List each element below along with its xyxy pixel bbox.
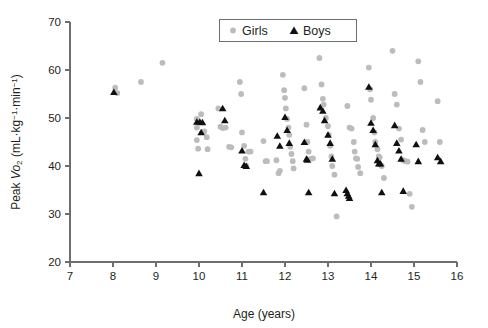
data-point-girl <box>422 139 428 145</box>
data-point-boy <box>412 141 420 148</box>
data-point-girl <box>332 172 338 178</box>
data-point-girl <box>390 48 396 54</box>
data-point-girl <box>349 126 355 132</box>
data-point-girl <box>394 102 400 108</box>
data-point-boy <box>365 83 373 90</box>
scatter-plot-figure: 203040506070 78910111213141516 Age (year… <box>0 0 488 328</box>
y-tick-label: 20 <box>48 256 61 268</box>
y-axis-tick-labels: 203040506070 <box>48 16 61 268</box>
data-point-girl <box>344 103 350 109</box>
data-point-girl <box>352 149 358 155</box>
data-point-girl <box>277 168 283 174</box>
data-point-boy <box>326 139 334 146</box>
data-point-boy <box>415 158 423 165</box>
plot-canvas: 203040506070 78910111213141516 Age (year… <box>0 0 488 328</box>
legend-boys-label: Boys <box>303 24 331 38</box>
y-title-unit-open: (mL·kg <box>9 120 23 161</box>
x-tick-label: 14 <box>365 270 378 282</box>
data-point-girl <box>357 170 363 176</box>
data-point-girl <box>355 164 361 170</box>
data-point-girl <box>398 137 404 143</box>
data-point-girl <box>381 175 387 181</box>
data-point-girl <box>319 82 325 88</box>
data-point-boy <box>260 189 268 196</box>
x-tick-label: 15 <box>408 270 421 282</box>
data-point-boy <box>378 189 386 196</box>
data-point-girl <box>205 146 211 152</box>
data-point-boy <box>195 170 203 177</box>
data-point-girl <box>366 65 372 71</box>
x-tick-label: 7 <box>67 270 73 282</box>
data-point-girl <box>195 146 201 152</box>
data-point-girl <box>354 156 360 162</box>
x-axis-tick-labels: 78910111213141516 <box>67 270 464 282</box>
data-point-boy <box>286 139 294 146</box>
data-point-boy <box>399 187 407 194</box>
data-point-boy <box>342 186 350 193</box>
y-tick-label: 40 <box>48 160 61 172</box>
data-point-girl <box>290 158 296 164</box>
data-point-boy <box>395 147 403 154</box>
y-tick-label: 30 <box>48 208 61 220</box>
x-tick-label: 12 <box>279 270 292 282</box>
data-point-girl <box>405 159 411 165</box>
data-point-girl <box>420 127 426 133</box>
x-axis-ticks <box>70 262 457 267</box>
x-tick-label: 8 <box>110 270 116 282</box>
data-point-girl <box>243 156 249 162</box>
data-point-girl <box>281 87 287 93</box>
y-tick-label: 50 <box>48 112 61 124</box>
data-point-girl <box>317 55 323 61</box>
data-point-girl <box>280 72 286 78</box>
x-tick-label: 13 <box>322 270 335 282</box>
data-point-girl <box>198 111 204 117</box>
data-point-girl <box>310 155 316 161</box>
x-tick-label: 10 <box>193 270 206 282</box>
x-tick-label: 11 <box>236 270 248 282</box>
data-point-girl <box>418 79 424 85</box>
y-title-lead: Peak <box>9 179 23 210</box>
data-point-girl <box>228 144 234 150</box>
legend-girls-label: Girls <box>242 24 268 38</box>
data-point-girl <box>237 79 243 85</box>
data-point-girl <box>239 130 245 136</box>
data-point-girl <box>325 123 331 129</box>
data-point-girl <box>435 98 441 104</box>
x-axis-title: Age (years) <box>233 307 295 321</box>
y-axis-ticks <box>65 22 70 262</box>
data-point-boy <box>331 190 339 197</box>
data-point-girl <box>368 97 374 103</box>
data-point-girl <box>291 166 297 172</box>
data-point-girl <box>301 85 307 91</box>
series-boys-points <box>110 83 444 201</box>
data-point-girl <box>304 122 310 128</box>
data-point-girl <box>238 91 244 97</box>
data-point-boy <box>221 117 229 124</box>
data-point-girl <box>320 96 326 102</box>
legend-girls-marker-icon <box>230 28 236 34</box>
data-point-boy <box>276 142 284 149</box>
data-point-girl <box>194 125 200 131</box>
data-point-girl <box>283 106 289 112</box>
data-point-girl <box>415 58 421 64</box>
data-point-girl <box>248 149 254 155</box>
data-point-girl <box>437 139 443 145</box>
legend-box <box>219 19 356 41</box>
data-point-girl <box>274 157 280 163</box>
data-point-boy <box>305 189 313 196</box>
data-point-girl <box>289 151 295 157</box>
data-point-girl <box>392 91 398 97</box>
data-point-girl <box>223 125 229 131</box>
y-tick-label: 60 <box>48 64 61 76</box>
data-point-boy <box>273 132 281 139</box>
data-point-girl <box>329 163 335 169</box>
y-title-mid: ·min <box>9 87 23 110</box>
data-point-girl <box>334 214 340 220</box>
x-tick-label: 16 <box>451 270 464 282</box>
y-tick-label: 70 <box>48 16 61 28</box>
data-point-girl <box>407 191 413 197</box>
y-axis-title: Peak Vo2 (mL·kg−1·min−1) <box>9 74 24 210</box>
data-point-girl <box>264 158 270 164</box>
data-point-girl <box>306 149 312 155</box>
data-point-girl <box>160 60 166 66</box>
